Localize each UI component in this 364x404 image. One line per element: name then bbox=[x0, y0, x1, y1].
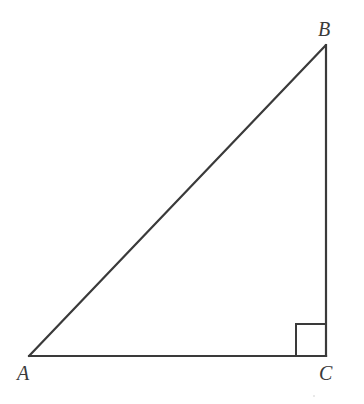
right-angle-marker bbox=[296, 324, 326, 356]
vertex-label-b: B bbox=[318, 18, 330, 40]
side-ab bbox=[29, 45, 326, 356]
speck bbox=[313, 395, 315, 397]
vertex-label-c: C bbox=[319, 362, 333, 384]
vertex-label-a: A bbox=[15, 362, 30, 384]
right-triangle-diagram: B A C bbox=[0, 0, 364, 404]
